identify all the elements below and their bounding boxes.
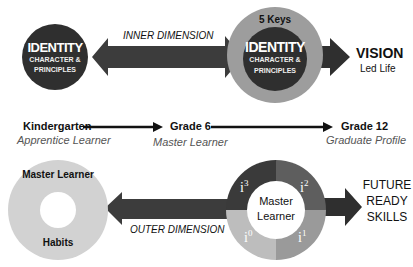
habits-label: Habits — [18, 237, 98, 248]
timeline-role-master: Master Learner — [153, 136, 228, 148]
quadrant-i2: i2 — [300, 178, 308, 196]
center-learner: Learner — [250, 210, 302, 222]
future-ready-skills: FUTURE READY SKILLS — [362, 177, 412, 225]
timeline-role-apprentice: Apprentice Learner — [17, 134, 111, 146]
identity-line1-left: CHARACTER & — [22, 56, 88, 63]
timeline-grade-kindergarten: Kindergarten — [23, 120, 91, 132]
master-learner-label: Master Learner — [18, 169, 98, 180]
quadrant-i0: i0 — [244, 228, 252, 246]
identity-line1-right: CHARACTER & — [243, 56, 307, 63]
identity-title-left: IDENTITY — [22, 40, 88, 55]
identity-title-right: IDENTITY — [243, 39, 307, 55]
timeline-arrow-2 — [323, 122, 333, 132]
timeline-arrow-1 — [153, 122, 163, 132]
diagram: IDENTITY CHARACTER & PRINCIPLES INNER DI… — [0, 0, 413, 267]
identity-line2-left: PRINCIPLES — [22, 66, 88, 73]
quadrant-i3: i3 — [240, 178, 248, 196]
five-keys-label: 5 Keys — [245, 14, 305, 25]
center-master: Master — [250, 195, 302, 207]
vision-title: VISION — [356, 45, 403, 61]
outer-dimension-arrow — [105, 192, 232, 225]
vision-subtitle: Led Life — [360, 63, 396, 74]
outer-dimension-label: OUTER DIMENSION — [130, 224, 224, 235]
inner-dimension-arrow — [92, 36, 243, 78]
timeline-role-graduate: Graduate Profile — [326, 134, 406, 146]
timeline-grade-12: Grade 12 — [341, 120, 388, 132]
quadrant-i1: i1 — [298, 228, 306, 246]
identity-line2-right: PRINCIPLES — [243, 67, 307, 74]
inner-dimension-label: INNER DIMENSION — [123, 30, 214, 41]
timeline-grade-6: Grade 6 — [170, 120, 211, 132]
